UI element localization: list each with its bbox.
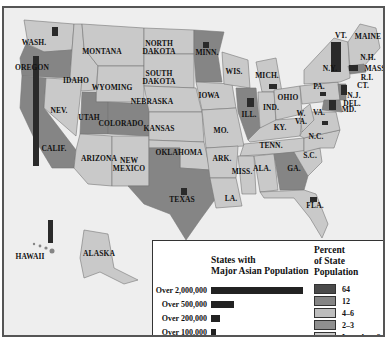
swatch xyxy=(314,308,336,318)
state-label: COLORADO xyxy=(99,119,144,128)
legend-bar xyxy=(211,329,216,336)
state-label: HAWAII xyxy=(16,252,45,261)
state-label: MICH. xyxy=(255,71,279,80)
state-label: CT. xyxy=(357,81,369,90)
state-label: MONTANA xyxy=(82,47,122,56)
state-label: OHIO xyxy=(278,93,299,102)
legend-population-row: Over 200,000 xyxy=(153,313,220,323)
legend-population-title: States with Major Asian Population xyxy=(211,255,321,277)
population-bar xyxy=(181,188,187,195)
state-label: VT. xyxy=(335,31,347,40)
state-label: ARK. xyxy=(213,154,232,163)
state-label: WIS. xyxy=(226,67,243,76)
state-label: ALASKA xyxy=(83,249,115,258)
state-louisiana xyxy=(210,178,242,208)
map-frame: WASH.OREGONIDAHOMONTANANORTHDAKOTASOUTHD… xyxy=(2,6,385,337)
state-label: VA. xyxy=(313,108,325,117)
legend-population-row: Over 2,000,000 xyxy=(153,285,303,295)
legend-percent-row: 12 xyxy=(314,296,350,306)
legend-bar xyxy=(211,301,234,308)
legend-population-row: Over 100,000 xyxy=(153,327,216,337)
state-label: MISS. xyxy=(232,167,253,176)
state-label: MASS. xyxy=(364,64,385,73)
legend-percent-title: Percent of State Population xyxy=(314,245,358,278)
population-bar xyxy=(322,121,328,125)
swatch xyxy=(314,332,336,337)
state-label: UTAH xyxy=(78,113,100,122)
population-bar xyxy=(269,84,277,89)
state-label: IOWA xyxy=(198,91,220,100)
population-bar xyxy=(341,85,347,95)
state-label: NORTHDAKOTA xyxy=(143,39,176,56)
legend-percent-row: 2–3 xyxy=(314,320,354,330)
swatch xyxy=(314,296,336,306)
state-label: FLA. xyxy=(306,201,323,210)
legend-population-row: Over 500,000 xyxy=(153,299,234,309)
state-label: IDAHO xyxy=(63,76,89,85)
state-label: NEV. xyxy=(50,106,67,115)
state-label: WYOMING xyxy=(92,83,133,92)
swatch xyxy=(314,284,336,294)
state-label: N.C. xyxy=(309,132,324,141)
state-florida xyxy=(260,190,328,238)
state-label: MAINE xyxy=(355,32,381,41)
state-label: CALIF. xyxy=(41,144,66,153)
population-bar xyxy=(247,98,254,107)
state-label: GA. xyxy=(287,164,300,173)
state-label: LA. xyxy=(225,194,238,203)
state-label: W.VA. xyxy=(295,109,307,126)
state-label: N.Y. xyxy=(323,64,337,73)
population-bar xyxy=(48,220,53,243)
state-label: S.C. xyxy=(303,151,317,160)
population-bar xyxy=(33,56,39,166)
state-alabama xyxy=(254,154,278,192)
legend-bar xyxy=(211,315,220,322)
state-label: ARIZONA xyxy=(81,154,118,163)
state-label: MD. xyxy=(342,105,357,114)
population-bar xyxy=(320,92,326,96)
state-label: KY. xyxy=(274,123,287,132)
state-label: OKLAHOMA xyxy=(155,148,203,157)
state-label: PA. xyxy=(313,82,325,91)
legend-percent-row: Less than 2 xyxy=(314,332,381,337)
state-label: NEBRASKA xyxy=(131,97,174,106)
state-label: SOUTHDAKOTA xyxy=(143,69,176,86)
legend-bar xyxy=(211,287,303,294)
population-bar xyxy=(349,65,358,71)
state-label: N.H. xyxy=(360,53,375,62)
state-label: TEXAS xyxy=(169,195,195,204)
legend-percent-row: 64 xyxy=(314,284,350,294)
state-label: ILL. xyxy=(241,110,256,119)
state-label: TENN. xyxy=(259,141,282,150)
state-label: OREGON xyxy=(15,63,49,72)
population-bar xyxy=(52,27,58,36)
state-label: KANSAS xyxy=(143,124,174,133)
state-label: ALA. xyxy=(253,164,271,173)
state-label: IND. xyxy=(263,103,279,112)
state-label: MINN. xyxy=(195,48,218,57)
swatch xyxy=(314,320,336,330)
state-label: MO. xyxy=(213,126,228,135)
state-label: WASH. xyxy=(22,38,46,47)
legend-percent-row: 4–6 xyxy=(314,308,354,318)
state-new-york xyxy=(304,38,350,84)
population-bar xyxy=(329,100,336,110)
